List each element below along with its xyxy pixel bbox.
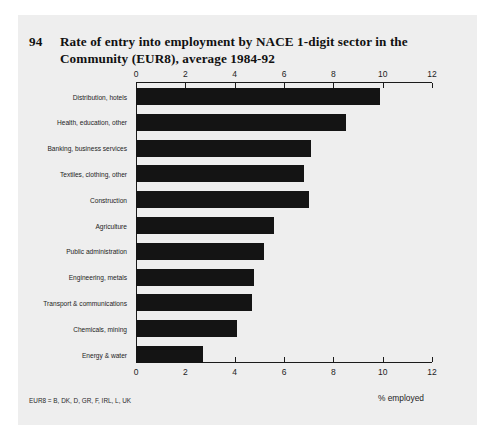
x-tick-label: 6 — [282, 367, 287, 377]
bar — [136, 191, 309, 208]
bar — [136, 165, 304, 182]
bar-row: Agriculture — [136, 217, 432, 234]
category-label: Transport & communications — [43, 299, 127, 306]
category-label: Agriculture — [95, 222, 127, 229]
bar — [136, 269, 254, 286]
x-tick-label: 6 — [282, 69, 287, 79]
category-label: Health, education, other — [57, 119, 127, 126]
bar — [136, 346, 203, 363]
bar — [136, 140, 311, 157]
x-axis-title: % employed — [136, 393, 432, 403]
footnote: EUR8 = B, DK, D, GR, F, IRL, L, UK — [29, 397, 131, 404]
x-tick-top — [432, 83, 433, 88]
x-tick-label: 8 — [331, 69, 336, 79]
category-label: Engineering, metals — [69, 274, 127, 281]
category-label: Chemicals, mining — [73, 325, 127, 332]
bar-row: Energy & water — [136, 346, 432, 363]
x-tick-label: 2 — [183, 69, 188, 79]
x-tick-bottom — [432, 357, 433, 362]
bar-row: Health, education, other — [136, 114, 432, 131]
bar — [136, 88, 380, 105]
bar-row: Transport & communications — [136, 294, 432, 311]
bar-row: Public administration — [136, 243, 432, 260]
bar-row: Engineering, metals — [136, 269, 432, 286]
figure-title-text: Rate of entry into employment by NACE 1-… — [60, 33, 459, 67]
x-tick-label: 10 — [378, 367, 387, 377]
x-tick-label: 10 — [378, 69, 387, 79]
category-label: Public administration — [66, 248, 127, 255]
category-label: Construction — [90, 196, 127, 203]
x-tick-label: 0 — [134, 367, 139, 377]
category-label: Banking, business services — [47, 145, 127, 152]
x-tick-label: 2 — [183, 367, 188, 377]
bar-row: Textiles, clothing, other — [136, 165, 432, 182]
x-tick-label: 8 — [331, 367, 336, 377]
bar — [136, 217, 274, 234]
figure-card: 94 Rate of entry into employment by NACE… — [18, 15, 477, 425]
category-label: Distribution, hotels — [73, 93, 127, 100]
figure-number: 94 — [29, 33, 60, 50]
bar-row: Banking, business services — [136, 140, 432, 157]
x-tick-label: 0 — [134, 69, 139, 79]
bar — [136, 243, 264, 260]
bar — [136, 114, 346, 131]
chart-plot-area: 024681012 024681012 Distribution, hotels… — [136, 82, 432, 363]
category-label: Textiles, clothing, other — [60, 170, 127, 177]
bar — [136, 294, 252, 311]
x-tick-label: 4 — [232, 69, 237, 79]
bar-row: Chemicals, mining — [136, 320, 432, 337]
bar-row: Construction — [136, 191, 432, 208]
page-title: 94 Rate of entry into employment by NACE… — [29, 33, 459, 67]
bar-row: Distribution, hotels — [136, 88, 432, 105]
category-label: Energy & water — [82, 351, 127, 358]
bar — [136, 320, 237, 337]
x-tick-label: 4 — [232, 367, 237, 377]
x-tick-label: 12 — [427, 367, 436, 377]
x-tick-label: 12 — [427, 69, 436, 79]
